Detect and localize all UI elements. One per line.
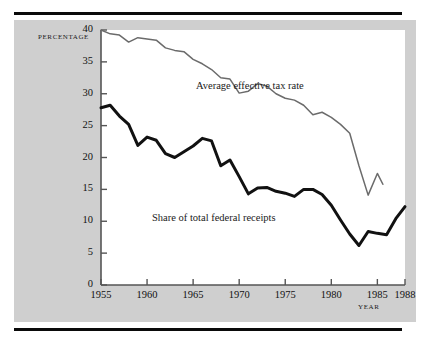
y-tick-label: 40 (71, 23, 93, 34)
figure-container: PERCENTAGE YEAR 0510152025303540 1955196… (0, 0, 443, 340)
y-tick-label: 35 (71, 55, 93, 66)
y-tick-label: 20 (71, 151, 93, 162)
x-tick-label: 1980 (311, 289, 351, 300)
y-axis-title: PERCENTAGE (38, 33, 89, 41)
y-tick-label: 25 (71, 119, 93, 130)
x-tick-label: 1975 (265, 289, 305, 300)
y-tick-label: 10 (71, 214, 93, 225)
y-tick-label: 5 (71, 246, 93, 257)
series-annotation-share-of-total-federal-receipts: Share of total federal receipts (152, 212, 276, 223)
x-tick-label: 1960 (127, 289, 167, 300)
x-tick-label: 1970 (219, 289, 259, 300)
x-tick-label: 1955 (81, 289, 121, 300)
y-tick-label: 15 (71, 182, 93, 193)
y-tick-label: 30 (71, 87, 93, 98)
series-annotation-average-effective-tax-rate: Average effective tax rate (196, 80, 304, 91)
x-tick-label: 1965 (173, 289, 213, 300)
x-axis-title: YEAR (358, 303, 379, 311)
y-tick-label: 0 (71, 278, 93, 289)
x-tick-label: 1988 (385, 289, 425, 300)
